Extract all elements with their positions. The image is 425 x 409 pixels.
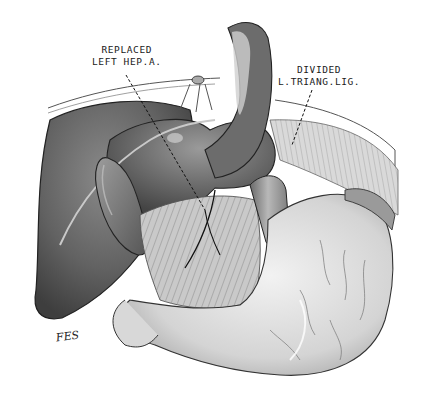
lesser-omentum: [140, 196, 260, 308]
anatomical-illustration: [0, 0, 425, 409]
label-line: L.TRIANG.LIG.: [278, 76, 360, 88]
label-divided-triangular-ligament: DIVIDED L.TRIANG.LIG.: [278, 64, 360, 88]
label-replaced-left-hepatic-artery: REPLACED LEFT HEP.A.: [92, 44, 162, 68]
label-line: DIVIDED: [278, 64, 360, 76]
vessel-stump: [180, 76, 212, 112]
liver-highlight: [167, 133, 183, 143]
label-line: REPLACED: [92, 44, 162, 56]
label-line: LEFT HEP.A.: [92, 56, 162, 68]
